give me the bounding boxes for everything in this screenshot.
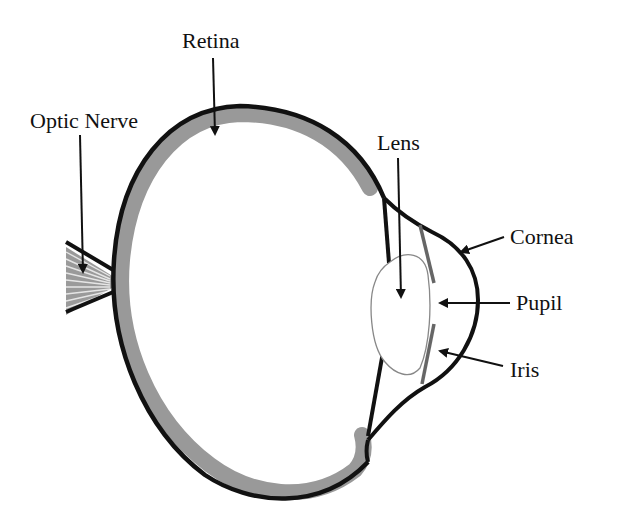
label-retina: Retina [182,30,239,52]
label-iris: Iris [510,359,539,381]
ciliary-upper [384,198,389,263]
label-lens: Lens [377,132,420,154]
eye-diagram-svg [0,0,617,528]
label-pupil: Pupil [516,292,562,314]
cornea-lower-join [367,440,369,462]
iris-arrow [440,351,503,366]
label-cornea: Cornea [510,226,574,248]
cornea-arrow [461,237,504,252]
retina-band [121,114,370,492]
label-optic-nerve: Optic Nerve [30,110,138,132]
